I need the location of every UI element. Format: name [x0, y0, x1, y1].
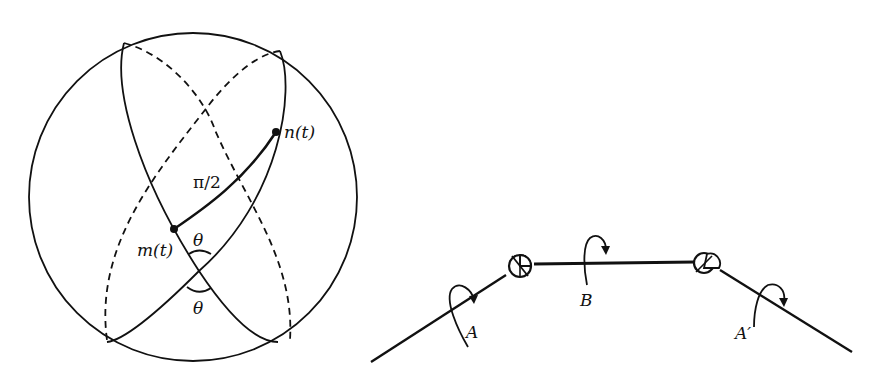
label-n: n(t) — [284, 122, 315, 142]
label-m: m(t) — [137, 240, 173, 260]
sphere-figure: n(t) m(t) π/2 θ θ — [29, 33, 357, 361]
rotation-arrow-a-prime-icon — [754, 284, 788, 327]
label-theta-bottom: θ — [193, 298, 203, 318]
label-a-prime: A′ — [733, 323, 751, 343]
joint-left-icon — [509, 255, 531, 277]
link-b — [534, 262, 695, 264]
geodesic-arc — [174, 132, 276, 229]
rotation-arrow-b-icon — [584, 236, 610, 285]
joint-right-icon — [694, 253, 720, 273]
label-a: A — [464, 322, 478, 342]
point-n — [272, 128, 280, 136]
great-circle-2-back — [105, 51, 280, 340]
label-b: B — [579, 290, 593, 310]
label-arc-length: π/2 — [193, 172, 221, 192]
angle-arc-top — [189, 251, 211, 255]
label-theta-top: θ — [193, 230, 203, 250]
figure-canvas: n(t) m(t) π/2 θ θ — [0, 0, 880, 379]
link-chain-figure: A B A′ — [371, 236, 852, 362]
angle-arc-bottom — [187, 287, 211, 292]
link-a — [371, 275, 506, 362]
point-m — [170, 225, 178, 233]
